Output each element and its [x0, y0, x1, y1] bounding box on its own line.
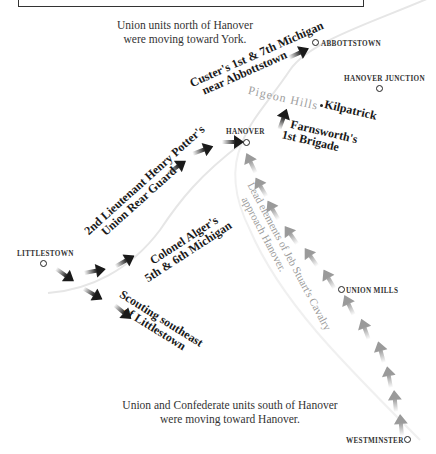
westminster-marker: [404, 436, 411, 443]
town-westminster: WESTMINSTER: [346, 437, 404, 445]
south-note: Union and Confederate units south of Han…: [100, 398, 360, 426]
littlestown-marker: [40, 260, 47, 267]
town-abbottstown: ABBOTTSTOWN: [321, 40, 381, 48]
town-union-mills: UNION MILLS: [346, 287, 398, 295]
kilpatrick-marker: [320, 104, 323, 107]
union-arrow-icon: [222, 135, 244, 149]
town-littlestown: LITTLESTOWN: [17, 250, 74, 258]
hanover-marker: [243, 139, 250, 146]
hanover-junction-marker: [376, 85, 383, 92]
confederate-arrow-icon: [393, 413, 409, 436]
north-note: Union units north of Hanover were moving…: [100, 18, 270, 46]
union-mills-marker: [338, 286, 345, 293]
town-hanover-junction: HANOVER JUNCTION: [344, 75, 425, 83]
confederate-arrow-icon: [387, 389, 403, 412]
